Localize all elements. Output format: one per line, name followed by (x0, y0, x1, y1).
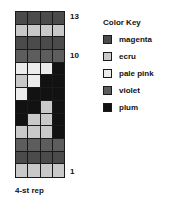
chart-cell-ecru[interactable] (41, 164, 53, 177)
chart-row (16, 88, 64, 101)
chart-cell-magenta[interactable] (16, 152, 28, 165)
chart-row (16, 126, 64, 139)
chart-cell-ecru[interactable] (28, 164, 40, 177)
chart-cell-ecru[interactable] (41, 101, 53, 114)
chart-cell-plum[interactable] (53, 114, 64, 127)
legend-item[interactable]: magenta (103, 34, 169, 45)
chart-cell-magenta[interactable] (28, 152, 40, 165)
chart-cell-ecru[interactable] (41, 114, 53, 127)
legend-swatch-plum (103, 103, 112, 112)
row-number-label: 10 (70, 51, 79, 60)
chart-row (16, 75, 64, 88)
chart-cell-pale-pink[interactable] (28, 63, 40, 76)
chart-cell-violet[interactable] (41, 50, 53, 63)
chart-cell-ecru[interactable] (16, 25, 28, 38)
chart-cell-pale-pink[interactable] (41, 63, 53, 76)
chart-cell-plum[interactable] (16, 114, 28, 127)
chart-cell-plum[interactable] (53, 63, 64, 76)
legend-item[interactable]: plum (103, 102, 169, 113)
chart-cell-magenta[interactable] (53, 12, 64, 25)
row-number-label: 13 (70, 12, 79, 21)
chart-row (16, 139, 64, 152)
legend-item[interactable]: violet (103, 85, 169, 96)
chart-row (16, 37, 64, 50)
chart-row (16, 50, 64, 63)
chart-cell-magenta[interactable] (41, 152, 53, 165)
chart-cell-magenta[interactable] (53, 37, 64, 50)
chart-cell-pale-pink[interactable] (16, 63, 28, 76)
legend-label: violet (119, 86, 140, 95)
chart-cell-violet[interactable] (28, 50, 40, 63)
chart-row (16, 63, 64, 76)
chart-cell-plum[interactable] (28, 101, 40, 114)
chart-cell-ecru[interactable] (28, 126, 40, 139)
chart-row (16, 164, 64, 177)
legend-swatch-pale-pink (103, 69, 112, 78)
chart-cell-violet[interactable] (28, 139, 40, 152)
chart-cell-magenta[interactable] (53, 152, 64, 165)
chart-cell-ecru[interactable] (16, 126, 28, 139)
row-number-label: 1 (70, 167, 74, 176)
chart-cell-ecru[interactable] (16, 164, 28, 177)
chart-cell-ecru[interactable] (28, 114, 40, 127)
legend-swatch-violet (103, 86, 112, 95)
chart-row (16, 25, 64, 38)
chart-cell-ecru[interactable] (41, 25, 53, 38)
legend-swatch-ecru (103, 52, 112, 61)
chart-cell-magenta[interactable] (41, 12, 53, 25)
chart-cell-ecru[interactable] (28, 25, 40, 38)
chart-cell-plum[interactable] (53, 88, 64, 101)
chart-cell-plum[interactable] (53, 75, 64, 88)
chart-caption: 4-st rep (15, 186, 44, 195)
chart-cell-magenta[interactable] (41, 37, 53, 50)
chart-cell-plum[interactable] (41, 75, 53, 88)
chart-cell-plum[interactable] (41, 88, 53, 101)
chart-cell-violet[interactable] (16, 139, 28, 152)
chart-row (16, 114, 64, 127)
chart-cell-plum[interactable] (16, 101, 28, 114)
legend-label: pale pink (119, 69, 154, 78)
knitting-chart-figure: 13101 4-st rep Color Key magentaecrupale… (0, 0, 170, 210)
chart-cell-magenta[interactable] (16, 12, 28, 25)
chart-cell-pale-pink[interactable] (28, 75, 40, 88)
color-key-legend: Color Key magentaecrupale pinkvioletplum (103, 18, 169, 119)
chart-cell-magenta[interactable] (28, 37, 40, 50)
chart-row (16, 152, 64, 165)
legend-label: plum (119, 103, 138, 112)
chart-cell-violet[interactable] (41, 139, 53, 152)
chart-cell-ecru[interactable] (16, 75, 28, 88)
chart-cell-plum[interactable] (53, 126, 64, 139)
chart-row (16, 101, 64, 114)
legend-item[interactable]: ecru (103, 51, 169, 62)
chart-cell-pale-pink[interactable] (16, 88, 28, 101)
chart-cell-magenta[interactable] (28, 12, 40, 25)
chart-cell-violet[interactable] (16, 50, 28, 63)
chart-cell-plum[interactable] (28, 88, 40, 101)
legend-label: ecru (119, 52, 136, 61)
colorwork-chart-grid[interactable] (15, 11, 65, 178)
chart-cell-ecru[interactable] (41, 126, 53, 139)
legend-swatch-magenta (103, 35, 112, 44)
chart-cell-plum[interactable] (53, 101, 64, 114)
chart-cell-violet[interactable] (53, 139, 64, 152)
chart-cell-ecru[interactable] (53, 164, 64, 177)
chart-cell-violet[interactable] (53, 50, 64, 63)
chart-row (16, 12, 64, 25)
chart-cell-magenta[interactable] (16, 37, 28, 50)
legend-item[interactable]: pale pink (103, 68, 169, 79)
legend-title: Color Key (103, 18, 169, 27)
legend-label: magenta (119, 35, 152, 44)
legend-item-list: magentaecrupale pinkvioletplum (103, 34, 169, 113)
chart-cell-ecru[interactable] (53, 25, 64, 38)
